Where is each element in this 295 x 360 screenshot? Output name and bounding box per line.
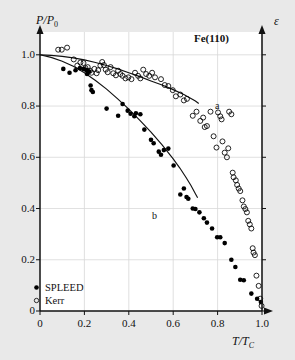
- data-point-filled: [229, 257, 234, 262]
- y-axis-right-title: ε: [274, 14, 279, 29]
- data-point-filled: [249, 291, 254, 296]
- sample-label: Fe(110): [194, 32, 229, 44]
- legend-label-spleed: SPLEED: [43, 282, 84, 293]
- data-point-filled: [233, 265, 238, 270]
- y-axis-title-main: P/P: [36, 13, 54, 27]
- data-point-filled: [88, 83, 93, 88]
- data-point-filled: [197, 210, 202, 215]
- data-point-filled: [210, 226, 215, 231]
- data-point-filled: [218, 235, 223, 240]
- curve-label-a: a: [215, 100, 219, 111]
- data-point-filled: [61, 67, 66, 72]
- data-point-filled: [73, 68, 78, 73]
- y-tick-label: 0.2: [4, 253, 35, 265]
- x-tick-label: 0: [26, 317, 54, 329]
- y-axis-title-sub: 0: [54, 20, 58, 29]
- curve-label-b: b: [152, 210, 157, 221]
- data-point-filled: [142, 127, 147, 132]
- data-point-filled: [128, 111, 133, 116]
- x-axis-title: T/TC: [232, 334, 254, 350]
- data-point-filled: [242, 278, 247, 283]
- data-point-filled: [193, 207, 198, 212]
- y-tick-label: 1.0: [4, 48, 35, 60]
- data-point-filled: [116, 113, 121, 118]
- x-tick-label: 0.2: [70, 317, 98, 329]
- data-point-filled: [162, 148, 167, 153]
- legend-item-kerr: Kerr: [30, 294, 84, 307]
- figure-container: P/P0 T/TC ε Fe(110) a b SPLEED Kerr 00.2…: [0, 0, 295, 360]
- data-point-filled: [171, 163, 176, 168]
- data-point-filled: [134, 111, 139, 116]
- filled-circle-icon: [30, 284, 43, 291]
- data-point-filled: [222, 241, 227, 246]
- x-axis-title-sub: C: [249, 341, 254, 350]
- data-point-filled: [138, 112, 143, 117]
- data-point-filled: [186, 196, 191, 201]
- y-axis-right-arrow: [259, 25, 266, 34]
- x-tick-label: 0.6: [159, 317, 187, 329]
- data-point-filled: [166, 146, 171, 151]
- data-point-filled: [178, 192, 183, 197]
- legend-item-spleed: SPLEED: [30, 281, 84, 294]
- y-tick-label: 0.4: [4, 202, 35, 214]
- y-tick-label: 0: [4, 304, 35, 316]
- data-point-filled: [151, 141, 156, 146]
- data-point-filled: [182, 186, 187, 191]
- open-circle-icon: [30, 297, 43, 304]
- data-point-filled: [104, 106, 109, 111]
- data-point-filled: [91, 90, 96, 95]
- data-point-filled: [67, 70, 72, 75]
- data-point-filled: [159, 152, 164, 157]
- x-tick-label: 0.8: [204, 317, 232, 329]
- data-point-filled: [120, 102, 125, 107]
- y-axis-title: P/P0: [36, 13, 58, 29]
- x-axis-title-main: T/T: [232, 334, 249, 348]
- x-tick-label: 1.0: [248, 317, 276, 329]
- legend: SPLEED Kerr: [30, 281, 84, 307]
- data-point-filled: [205, 220, 210, 225]
- x-tick-label: 0.4: [115, 317, 143, 329]
- y-tick-label: 0.8: [4, 99, 35, 111]
- y-tick-label: 0.6: [4, 150, 35, 162]
- legend-label-kerr: Kerr: [43, 295, 64, 306]
- data-point-filled: [202, 216, 207, 221]
